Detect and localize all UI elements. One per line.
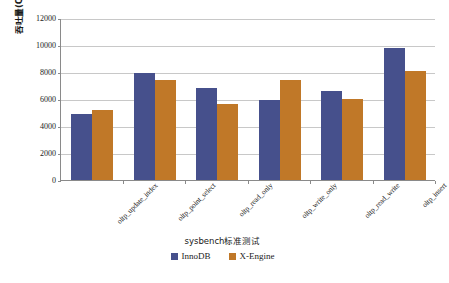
- chart-legend: InnoDBX-Engine: [0, 251, 445, 261]
- legend-label: InnoDB: [182, 251, 211, 261]
- x-axis-tickmark: [248, 181, 249, 184]
- bar-innodb-oltp_update_index: [71, 114, 92, 180]
- bar-x-engine-oltp_read_write: [342, 99, 363, 180]
- x-axis-tickmark: [435, 181, 436, 184]
- bars-layer: [61, 19, 435, 180]
- x-axis-tickmark: [310, 181, 311, 184]
- bar-x-engine-oltp_read_only: [217, 104, 238, 180]
- bar-innodb-oltp_write_only: [259, 100, 280, 180]
- x-axis-tick-label: oltp_write_only: [300, 181, 339, 220]
- y-axis-tick-label: 2000: [22, 150, 56, 158]
- y-axis-tick-label: 0: [22, 177, 56, 185]
- bar-group: [311, 19, 374, 180]
- plot-area: [60, 19, 435, 181]
- x-axis-tick-label: oltp_insert: [420, 181, 448, 209]
- legend-entry: X-Engine: [229, 251, 275, 261]
- bar-group: [124, 19, 187, 180]
- y-axis-tick-label: 10000: [22, 42, 56, 50]
- x-axis-title: sysbench标准测试: [0, 236, 445, 247]
- y-axis-tick-label: 4000: [22, 123, 56, 131]
- x-axis-tick-label: oltp_read_only: [237, 181, 274, 218]
- y-axis-tick-label: 12000: [22, 15, 56, 23]
- x-axis-tickmark: [185, 181, 186, 184]
- bar-innodb-oltp_read_write: [321, 91, 342, 180]
- legend-entry: InnoDB: [171, 251, 211, 261]
- bar-group: [186, 19, 249, 180]
- bar-group: [374, 19, 437, 180]
- legend-label: X-Engine: [240, 251, 275, 261]
- bar-innodb-oltp_insert: [384, 48, 405, 180]
- legend-swatch-icon: [171, 253, 178, 260]
- bar-x-engine-oltp_write_only: [280, 80, 301, 180]
- bar-x-engine-oltp_insert: [405, 71, 426, 180]
- bar-innodb-oltp_read_only: [196, 88, 217, 180]
- bar-group: [249, 19, 312, 180]
- bar-group: [61, 19, 124, 180]
- y-axis-tick-label: 8000: [22, 69, 56, 77]
- bar-x-engine-oltp_update_index: [92, 110, 113, 180]
- x-axis-tick-label: oltp_read_write: [362, 181, 401, 220]
- x-axis-tick-labels: oltp_update_indexoltp_point_selectoltp_r…: [60, 181, 435, 241]
- bar-innodb-oltp_point_select: [134, 73, 155, 180]
- legend-swatch-icon: [229, 253, 236, 260]
- y-axis-tick-label: 6000: [22, 96, 56, 104]
- x-axis-tickmark: [123, 181, 124, 184]
- x-axis-tickmark: [373, 181, 374, 184]
- x-axis-tick-label: oltp_point_select: [176, 181, 218, 223]
- x-axis-tick-label: oltp_update_index: [115, 181, 160, 226]
- bar-x-engine-oltp_point_select: [155, 80, 176, 180]
